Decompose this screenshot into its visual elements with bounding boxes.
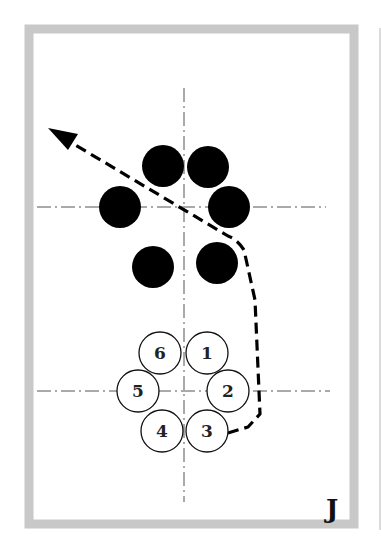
defender-marker [208, 186, 250, 228]
attacker-marker-5: 5 [117, 370, 159, 412]
attacker-marker-4: 4 [141, 410, 183, 452]
attacker-marker-1: 1 [186, 332, 228, 374]
defender-marker [196, 242, 238, 284]
panel-frame [29, 29, 354, 524]
attacker-marker-2: 2 [207, 370, 249, 412]
defender-marker [99, 186, 141, 228]
player-number: 2 [222, 381, 234, 401]
attacker-marker-6: 6 [139, 332, 181, 374]
player-number: 5 [132, 381, 144, 401]
defender-marker [142, 145, 184, 187]
player-number: 4 [156, 421, 168, 441]
formation-diagram: 123456 J [0, 0, 381, 542]
player-number: 1 [201, 343, 213, 363]
attacker-marker-3: 3 [186, 410, 228, 452]
defender-marker [187, 146, 229, 188]
player-number: 3 [201, 421, 213, 441]
defender-marker [132, 246, 174, 288]
panel-label: J [324, 494, 338, 524]
player-number: 6 [154, 343, 166, 363]
